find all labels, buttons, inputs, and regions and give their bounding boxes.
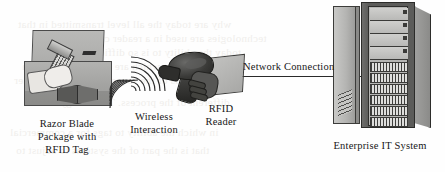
rfid-tag-right-wing [77, 85, 98, 104]
network-connection-label: Network Connection [243, 61, 334, 72]
rfid-reader-label: RFID Reader [182, 102, 260, 128]
rack-server-module [370, 62, 408, 72]
rack-shelf-blank [370, 47, 408, 60]
rfid-reader-device [160, 48, 246, 106]
rack-server-module [370, 84, 408, 94]
caption-line: Razor Blade [8, 117, 126, 130]
reader-head-highlight [184, 56, 208, 71]
rfid-tag-left-wing [57, 85, 78, 104]
rack-door-vents [338, 89, 352, 117]
rack-shelf-blank [370, 21, 408, 34]
shelf-tab [403, 10, 407, 14]
enterprise-server-rack [333, 2, 437, 130]
wireless-signal-arcs-icon-upper [128, 55, 168, 97]
caption-line: RFID [182, 102, 260, 115]
rack-server-module [370, 117, 408, 127]
razor-blade-package-label: Razor Blade Package with RFID Tag [8, 117, 126, 156]
rack-server-module [370, 106, 408, 116]
rfid-tag-icon [57, 85, 99, 104]
rack-shelf-blank [370, 8, 408, 21]
shelf-tab [403, 49, 407, 53]
rack-cabinet-body [361, 2, 415, 128]
rack-server-module [370, 73, 408, 83]
enterprise-it-system-label: Enterprise IT System [316, 139, 444, 152]
rack-door-edge [355, 6, 360, 124]
rack-shelf-blank [370, 34, 408, 47]
ghost-line: why are today the all level transmitted … [18, 18, 231, 30]
rack-door [333, 6, 356, 124]
rack-interior [368, 6, 408, 126]
caption-line: RFID Tag [8, 143, 126, 156]
package-brand-mark [82, 51, 96, 55]
rfid-system-diagram: why are today the all level transmitted … [0, 0, 445, 172]
caption-line: Enterprise IT System [316, 139, 444, 152]
rack-side-panel [414, 6, 431, 128]
shelf-tab [403, 36, 407, 40]
shelf-tab [403, 23, 407, 27]
rack-server-module [370, 95, 408, 105]
caption-line: Package with [8, 130, 126, 143]
caption-line: Reader [182, 115, 260, 128]
